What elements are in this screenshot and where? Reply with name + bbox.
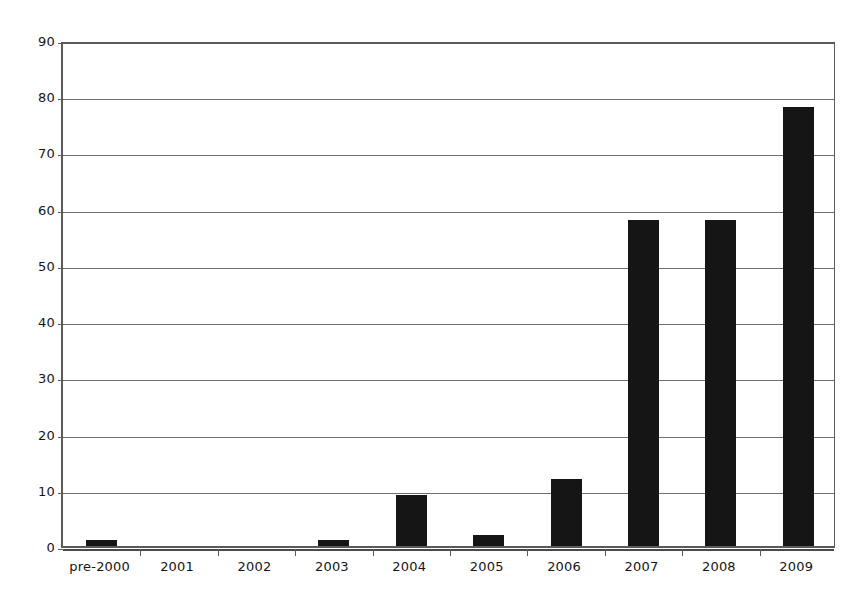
x-tick-mark xyxy=(527,549,528,556)
bar xyxy=(86,540,117,546)
x-tick-label: 2007 xyxy=(603,560,680,574)
x-tick-mark xyxy=(218,549,219,556)
x-tick-label: 2006 xyxy=(525,560,602,574)
x-tick-label: 2008 xyxy=(680,560,757,574)
y-tick-label: 80 xyxy=(11,91,55,104)
x-tick-mark xyxy=(140,549,141,556)
y-tick-label: 10 xyxy=(11,485,55,498)
x-tick-mark xyxy=(605,549,606,556)
plot-area xyxy=(61,42,835,548)
bar xyxy=(783,107,814,546)
bar xyxy=(628,220,659,546)
x-tick-mark xyxy=(373,549,374,556)
x-axis-tick-labels: pre-200020012002200320042005200620072008… xyxy=(61,560,835,580)
y-tick-label: 70 xyxy=(11,147,55,160)
x-tick-label: 2004 xyxy=(371,560,448,574)
gridline xyxy=(63,549,834,551)
x-tick-mark xyxy=(760,549,761,556)
x-tick-label: 2002 xyxy=(216,560,293,574)
y-axis-tick-labels: 0102030405060708090 xyxy=(0,0,55,605)
bar xyxy=(396,495,427,546)
x-tick-label: 2001 xyxy=(138,560,215,574)
y-tick-label: 20 xyxy=(11,429,55,442)
y-tick-label: 40 xyxy=(11,316,55,329)
y-tick-label: 0 xyxy=(11,541,55,554)
y-tick-mark xyxy=(58,549,64,550)
x-tick-label: 2009 xyxy=(758,560,835,574)
bar xyxy=(551,479,582,546)
bar xyxy=(705,220,736,546)
x-tick-label: pre-2000 xyxy=(61,560,138,574)
x-tick-label: 2005 xyxy=(448,560,525,574)
x-tick-label: 2003 xyxy=(293,560,370,574)
y-tick-label: 90 xyxy=(11,35,55,48)
bar xyxy=(473,535,504,546)
x-tick-mark xyxy=(682,549,683,556)
y-tick-label: 50 xyxy=(11,260,55,273)
x-tick-mark xyxy=(450,549,451,556)
bar xyxy=(318,540,349,546)
y-tick-label: 60 xyxy=(11,204,55,217)
bar-chart: 0102030405060708090 pre-2000200120022003… xyxy=(0,0,866,605)
x-tick-mark xyxy=(295,549,296,556)
bars-group xyxy=(63,43,834,546)
y-tick-label: 30 xyxy=(11,372,55,385)
